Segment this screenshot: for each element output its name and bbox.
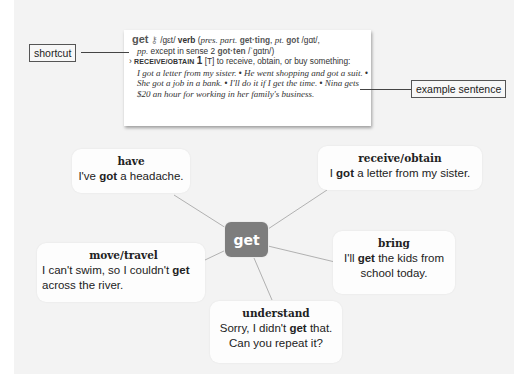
- dictionary-entry: get ⚷ /gɛt/ verb (pres. part. get·ting, …: [124, 30, 371, 126]
- sense-number: 1: [197, 55, 203, 66]
- center-node-get: get: [225, 222, 268, 257]
- pt-pron: /gɑt/,: [301, 35, 319, 45]
- node-bring: bring I'll get the kids from school toda…: [333, 231, 455, 294]
- example-leader-line: [360, 89, 411, 90]
- pt-form: got: [286, 35, 299, 45]
- bullet: •: [365, 68, 368, 78]
- pp-text: except in sense 2: [151, 46, 216, 56]
- definition: to receive, obtain, or buy something:: [217, 56, 351, 66]
- example: He went shopping and got a suit.: [244, 68, 363, 78]
- shortcut-label: shortcut: [29, 44, 76, 62]
- pp-pron: /ˈgɑtn/): [248, 46, 274, 56]
- node-example: I'll get the kids from school today.: [341, 251, 447, 281]
- node-title: understand: [216, 306, 336, 321]
- node-example: I got a letter from my sister.: [318, 166, 482, 181]
- bullet: •: [225, 78, 228, 88]
- node-receive-obtain: receive/obtain I got a letter from my si…: [318, 146, 482, 190]
- pres-part-label: pres. part.: [200, 35, 237, 45]
- grammar-code: [T]: [205, 56, 215, 66]
- sense-1: › RECEIVE/OBTAIN 1 [T] to receive, obtai…: [129, 56, 371, 68]
- pp-label: pp.: [137, 46, 148, 56]
- shortcut-text: RECEIVE/OBTAIN: [134, 58, 194, 65]
- node-title: move/travel: [42, 248, 205, 263]
- node-move-travel: move/travel I can't swim, so I couldn't …: [37, 243, 205, 302]
- examples: I got a letter from my sister. • He went…: [132, 68, 369, 100]
- node-have: have I've got a headache.: [72, 149, 190, 193]
- node-understand: understand Sorry, I didn't get that. Can…: [210, 301, 342, 363]
- node-title: receive/obtain: [318, 151, 482, 166]
- node-example: I've got a headache.: [72, 169, 190, 184]
- pres-part-form: get·ting: [240, 35, 270, 45]
- pronunciation: /gɛt/: [160, 35, 175, 45]
- bullet: •: [239, 68, 242, 78]
- key-icon: ⚷: [151, 35, 158, 45]
- headword: get: [132, 33, 149, 45]
- example-sentence-label: example sentence: [411, 80, 506, 98]
- node-title: bring: [341, 236, 447, 251]
- part-of-speech: verb: [178, 35, 196, 45]
- entry-line-2: pp. except in sense 2 got·ten /ˈgɑtn/): [132, 46, 371, 57]
- example: I got a letter from my sister.: [137, 68, 236, 78]
- entry-line-1: get ⚷ /gɛt/ verb (pres. part. get·ting, …: [132, 34, 371, 46]
- pp-form: got·ten: [217, 46, 245, 56]
- pt-label: pt.: [275, 35, 284, 45]
- node-example: I can't swim, so I couldn't get across t…: [42, 263, 205, 293]
- node-example: Sorry, I didn't get that. Can you repeat…: [216, 321, 336, 351]
- bullet: •: [320, 78, 323, 88]
- node-title: have: [72, 154, 190, 169]
- shortcut-leader-line: [81, 52, 129, 53]
- shortcut-arrow-icon: ›: [129, 56, 132, 66]
- example: She got a job in a bank.: [137, 78, 222, 88]
- example: I'll do it if I get the time.: [230, 78, 317, 88]
